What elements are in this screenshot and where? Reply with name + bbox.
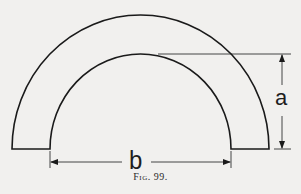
- dimension-label-b: b: [129, 148, 142, 173]
- figure-99: a b Fig. 99.: [0, 0, 301, 194]
- figure-caption: Fig. 99.: [0, 171, 301, 182]
- arch-diagram: [0, 0, 301, 194]
- dimension-label-a: a: [275, 87, 287, 109]
- arch-ring-outline: [12, 15, 269, 149]
